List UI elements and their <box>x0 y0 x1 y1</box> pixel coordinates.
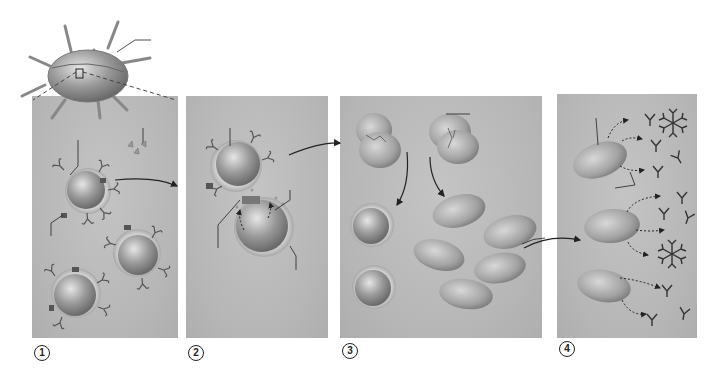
b-cell-helper-t-binding <box>206 128 296 270</box>
diagram-illustration <box>0 0 721 381</box>
b-cell-1 <box>104 225 171 289</box>
dividing-cells <box>356 113 479 205</box>
memory-cells <box>350 203 396 309</box>
antibodies <box>645 109 695 326</box>
pathogen-cell <box>22 22 176 118</box>
b-cell-2 <box>44 264 111 330</box>
plasma-cells-secreting <box>568 118 664 314</box>
plasma-cells <box>410 189 545 313</box>
b-cell-activated <box>51 128 146 236</box>
